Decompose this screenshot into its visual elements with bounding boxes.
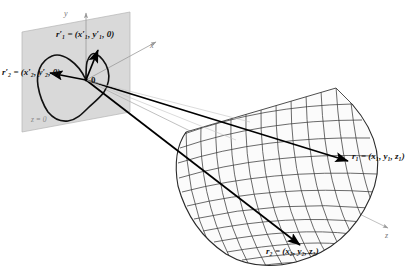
y-axis-label: y xyxy=(64,10,68,18)
r1-prime-label: r′₁ = (x′₁, y′₁, 0) xyxy=(56,30,114,39)
x-axis-label: x xyxy=(150,42,154,50)
z-axis-label: z xyxy=(385,232,388,240)
origin-point xyxy=(85,79,88,82)
figure-canvas xyxy=(0,0,416,276)
physics-mapping-figure: y x z z = 0 0 r′₁ = (x′₁, y′₁, 0) r′₂ = … xyxy=(0,0,416,276)
plane-equation-label: z = 0 xyxy=(31,116,46,124)
r2-label: r₂ = (x₂, y₂, z₂) xyxy=(266,247,319,256)
r2-prime-label: r′₂ = (x′₂, y′₂, 0) xyxy=(2,68,60,77)
origin-label: 0 xyxy=(91,76,96,85)
r1-label: r₁ = (x₁, y₁, z₁) xyxy=(352,152,405,161)
curved-mesh-surface xyxy=(176,87,378,268)
